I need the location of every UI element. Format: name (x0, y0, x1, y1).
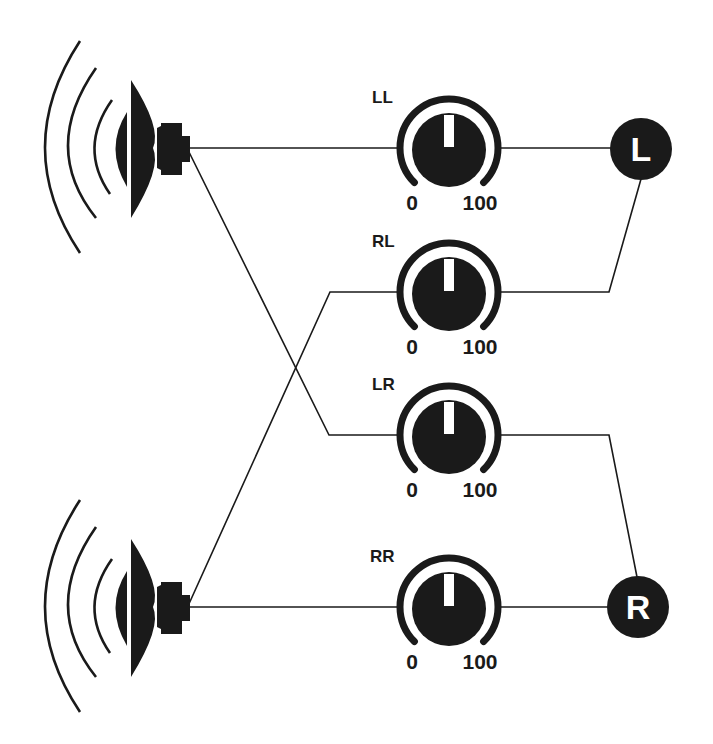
wire-LR-to-R (498, 435, 637, 577)
wire-RL-to-L (498, 179, 641, 292)
knob-max-label: 100 (462, 335, 497, 358)
output-label: L (631, 130, 652, 168)
speaker-bottom (45, 500, 190, 712)
knob-LR[interactable]: LR 0 100 (372, 375, 498, 501)
output-label: R (626, 588, 651, 626)
knob-label: RR (370, 547, 395, 566)
wires (188, 148, 641, 607)
knob-dial-icon[interactable] (400, 558, 498, 646)
knob-min-label: 0 (406, 335, 418, 358)
wire-speaker-bottom-to-RL (188, 292, 400, 606)
knob-min-label: 0 (406, 650, 418, 673)
output-R: R (607, 576, 669, 638)
knob-RL[interactable]: RL 0 100 (372, 232, 498, 358)
knob-label: LL (372, 88, 393, 107)
knob-min-label: 0 (406, 478, 418, 501)
knob-label: LR (372, 375, 395, 394)
knob-max-label: 100 (462, 650, 497, 673)
knob-max-label: 100 (462, 191, 497, 214)
knob-LL[interactable]: LL 0 100 (372, 88, 498, 214)
knob-RR[interactable]: RR 0 100 (370, 547, 498, 673)
output-L: L (610, 118, 672, 180)
knob-max-label: 100 (462, 478, 497, 501)
knob-dial-icon[interactable] (400, 243, 498, 331)
knob-dial-icon[interactable] (400, 386, 498, 474)
knob-label: RL (372, 232, 395, 251)
speaker-top (45, 41, 190, 253)
knob-dial-icon[interactable] (400, 99, 498, 187)
speaker-icon (45, 500, 190, 712)
speaker-icon (45, 41, 190, 253)
knob-min-label: 0 (406, 191, 418, 214)
crossfeed-diagram: LL 0 100 RL 0 100 LR 0 100 RR 0 100 L R (0, 0, 713, 744)
